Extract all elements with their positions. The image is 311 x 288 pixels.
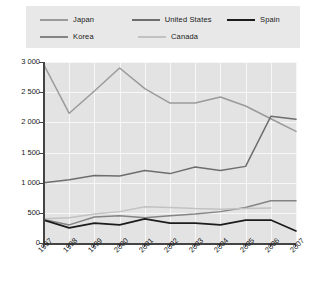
y-tick-label: 2 000	[2, 117, 40, 126]
y-axis-line	[43, 62, 45, 244]
y-tick-mark	[39, 62, 43, 63]
plot-wrapper: 05001 0001 5002 0002 5003 000 1997199819…	[0, 52, 311, 288]
y-tick-label: 1 000	[2, 178, 40, 187]
legend-swatch-japan	[40, 19, 68, 21]
legend-row-1: Japan United States Spain	[40, 11, 300, 28]
y-axis-labels: 05001 0001 5002 0002 5003 000	[0, 62, 40, 244]
y-tick-mark	[39, 183, 43, 184]
y-tick-label: 3 000	[2, 57, 40, 66]
legend-item-japan: Japan	[40, 15, 126, 24]
legend-item-spain: Spain	[227, 15, 294, 24]
y-tick-label: 0	[2, 238, 40, 247]
legend-label-spain: Spain	[260, 15, 280, 24]
series-line-united-states	[44, 116, 296, 182]
legend-item-canada: Canada	[138, 32, 234, 41]
legend-swatch-united-states	[132, 19, 160, 21]
legend-swatch-canada	[138, 36, 166, 38]
vertical-gridline	[296, 62, 297, 243]
legend-row-2: Korea Canada	[40, 28, 300, 45]
legend-item-korea: Korea	[40, 32, 132, 41]
series-line-korea	[44, 201, 296, 225]
y-tick-mark	[39, 213, 43, 214]
y-tick-mark	[39, 122, 43, 123]
y-tick-label: 500	[2, 208, 40, 217]
chart-legend: Japan United States Spain Korea Canada	[26, 6, 300, 48]
y-tick-mark	[39, 92, 43, 93]
data-lines	[44, 62, 296, 243]
legend-label-united-states: United States	[165, 15, 212, 24]
legend-label-japan: Japan	[73, 15, 94, 24]
y-tick-mark	[39, 153, 43, 154]
plot-area	[44, 62, 296, 243]
legend-swatch-korea	[40, 36, 68, 38]
y-tick-label: 1 500	[2, 148, 40, 157]
legend-item-united-states: United States	[132, 15, 221, 24]
legend-label-canada: Canada	[171, 32, 198, 41]
chart-figure: Japan United States Spain Korea Canada	[0, 0, 311, 288]
legend-label-korea: Korea	[73, 32, 94, 41]
x-axis-labels: 1997199819992000200120022003200420052006…	[0, 248, 311, 288]
legend-swatch-spain	[227, 19, 255, 21]
series-line-japan	[44, 65, 296, 131]
y-tick-label: 2 500	[2, 87, 40, 96]
